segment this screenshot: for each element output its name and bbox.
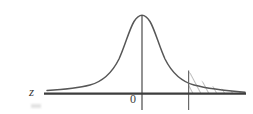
distribution-plot bbox=[0, 0, 253, 114]
normal-distribution-figure: z 0 bbox=[0, 0, 253, 114]
scan-artifact bbox=[31, 104, 41, 108]
center-tick-label: 0 bbox=[130, 93, 136, 105]
z-axis-label: z bbox=[29, 85, 34, 98]
bell-curve bbox=[47, 15, 245, 92]
